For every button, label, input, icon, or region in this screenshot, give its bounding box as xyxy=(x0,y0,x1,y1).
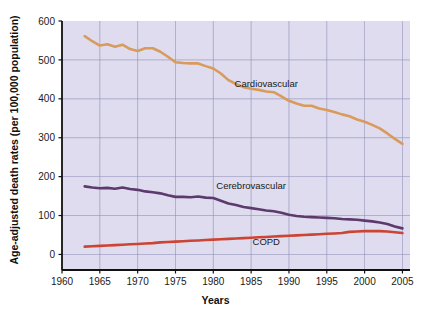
line-chart-plot: 1960196519701975198019851990199520002005… xyxy=(0,0,431,317)
x-axis-label: Years xyxy=(0,294,431,306)
y-tick-label: 0 xyxy=(49,249,55,260)
y-tick-label: 400 xyxy=(38,93,55,104)
x-tick-label: 1985 xyxy=(240,276,263,287)
y-tick-label: 100 xyxy=(38,210,55,221)
x-tick-label: 1970 xyxy=(127,276,150,287)
chart-figure: Age-adjusted death rates (per 100,000 po… xyxy=(0,0,431,317)
x-tick-label: 1960 xyxy=(51,276,74,287)
y-tick-label: 500 xyxy=(38,55,55,66)
y-tick-label: 300 xyxy=(38,132,55,143)
series-label-copd: COPD xyxy=(253,236,281,247)
x-tick-label: 1990 xyxy=(278,276,301,287)
y-tick-labels: 0100200300400500600 xyxy=(38,16,55,260)
x-tick-label: 1995 xyxy=(316,276,339,287)
x-tick-label: 1965 xyxy=(89,276,112,287)
x-tick-label: 1975 xyxy=(164,276,187,287)
series-label-cerebrovascular: Cerebrovascular xyxy=(216,180,286,191)
y-tick-label: 200 xyxy=(38,171,55,182)
y-tick-label: 600 xyxy=(38,16,55,27)
x-tick-labels: 1960196519701975198019851990199520002005 xyxy=(51,276,414,287)
x-tick-label: 2000 xyxy=(353,276,376,287)
x-tick-label: 1980 xyxy=(202,276,225,287)
series-label-cardiovascular: Cardiovascular xyxy=(235,78,298,89)
x-tick-label: 2005 xyxy=(391,276,414,287)
